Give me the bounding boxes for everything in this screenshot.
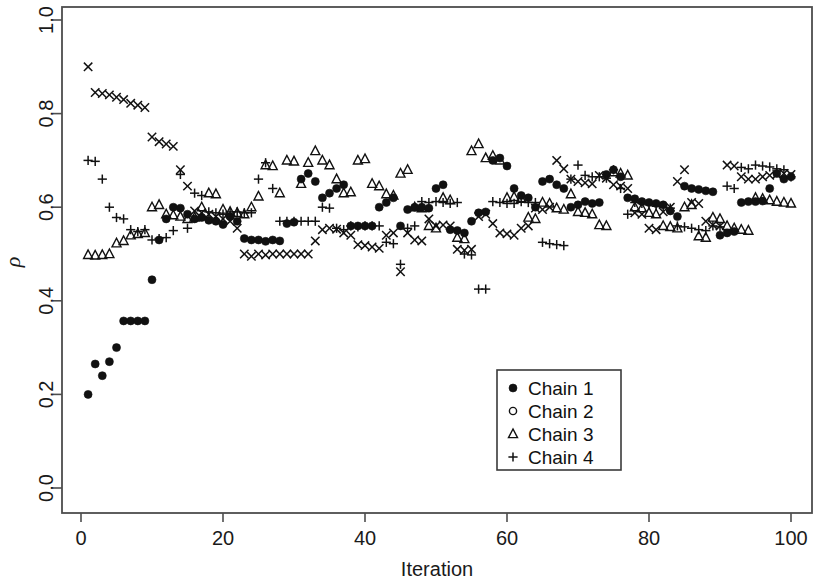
data-point	[439, 181, 447, 189]
data-point	[588, 199, 596, 207]
data-point	[247, 236, 255, 244]
y-tick-label: 0.2	[35, 380, 57, 408]
data-point	[127, 317, 135, 325]
data-point	[318, 194, 326, 202]
x-tick-label: 20	[212, 527, 234, 549]
y-tick-label: 0.4	[35, 287, 57, 315]
data-point	[262, 237, 270, 245]
data-point	[766, 184, 774, 192]
data-point	[539, 177, 547, 185]
legend-label: Chain 3	[528, 424, 594, 445]
data-point	[702, 187, 710, 195]
y-tick-label: 0.0	[35, 474, 57, 502]
legend-label: Chain 2	[528, 401, 594, 422]
data-point	[304, 170, 312, 178]
data-point	[737, 199, 745, 207]
data-point	[98, 372, 106, 380]
data-point	[105, 358, 113, 366]
data-point	[681, 182, 689, 190]
data-point	[581, 198, 589, 206]
scatter-plot-figure: 0.00.20.40.60.81.0 020406080100 Chain 1C…	[0, 0, 825, 588]
data-point	[432, 184, 440, 192]
data-point	[624, 194, 632, 202]
data-point	[716, 231, 724, 239]
data-point	[560, 184, 568, 192]
y-tick-label: 1.0	[35, 6, 57, 34]
data-point	[91, 360, 99, 368]
data-point	[276, 237, 284, 245]
y-tick-label: 0.8	[35, 100, 57, 128]
data-point	[255, 236, 263, 244]
y-tick-label: 0.6	[35, 193, 57, 221]
legend-marker-filled-circle	[509, 384, 517, 392]
data-point	[113, 344, 121, 352]
legend-label: Chain 4	[528, 447, 594, 468]
figure-background	[0, 0, 825, 588]
data-point	[553, 181, 561, 189]
plot-canvas: 0.00.20.40.60.81.0 020406080100 Chain 1C…	[0, 0, 825, 588]
data-point	[673, 213, 681, 221]
legend-label: Chain 1	[528, 378, 594, 399]
data-point	[709, 188, 717, 196]
data-point	[326, 189, 334, 197]
legend-marker-open-circle	[509, 407, 516, 414]
data-point	[148, 276, 156, 284]
data-point	[375, 203, 383, 211]
data-point	[141, 317, 149, 325]
chart-legend: Chain 1Chain 2Chain 3Chain 4	[497, 370, 621, 470]
data-point	[468, 217, 476, 225]
data-point	[688, 184, 696, 192]
data-point	[311, 177, 319, 185]
x-tick-label: 40	[354, 527, 376, 549]
data-point	[333, 184, 341, 192]
data-point	[595, 199, 603, 207]
data-point	[546, 175, 554, 183]
data-point	[269, 236, 277, 244]
data-point	[695, 185, 703, 193]
data-point	[84, 390, 92, 398]
x-tick-label: 100	[774, 527, 807, 549]
x-tick-label: 0	[75, 527, 86, 549]
x-axis-title: Iteration	[401, 558, 473, 580]
x-tick-label: 80	[638, 527, 660, 549]
x-tick-label: 60	[496, 527, 518, 549]
y-axis-title: ρ	[0, 257, 25, 269]
data-point	[567, 203, 575, 211]
data-point	[240, 235, 248, 243]
